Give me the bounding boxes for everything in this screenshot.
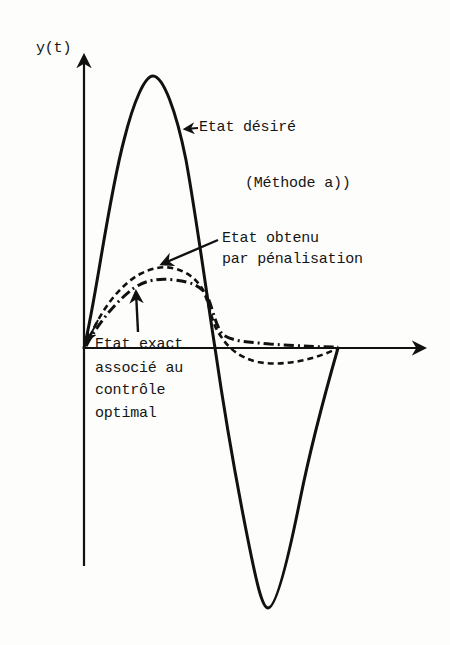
y-axis-label: y(t) (36, 38, 71, 59)
optimal-control-figure (0, 0, 450, 645)
exact-label-line2: associé au (95, 358, 183, 379)
penalized-state-pointer (162, 240, 218, 264)
desired-state-pointer (185, 128, 198, 129)
exact-label-line3: contrôle (95, 380, 165, 401)
exact-state-pointer (136, 292, 138, 332)
exact-label-line1: Etat exact (95, 334, 183, 355)
method-label: (Méthode a)) (245, 173, 351, 194)
penalized-label-line2: par pénalisation (222, 249, 363, 270)
penalized-label-line1: Etat obtenu (222, 228, 319, 249)
desired-state-label: Etat désiré (199, 117, 296, 138)
exact-label-line4: optimal (95, 403, 157, 424)
